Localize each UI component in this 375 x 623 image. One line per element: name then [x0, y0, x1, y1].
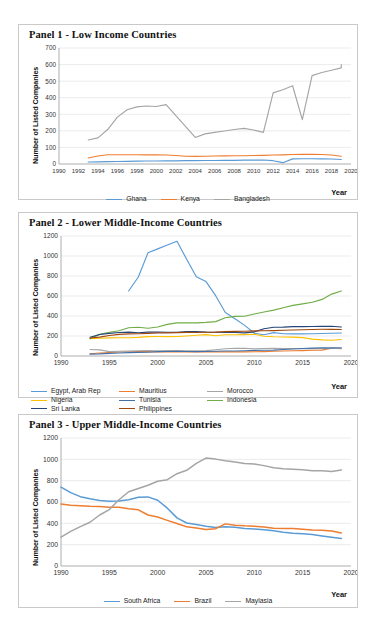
svg-text:2014: 2014	[286, 168, 300, 174]
svg-text:2012: 2012	[266, 168, 280, 174]
legend-item-south-africa[interactable]: South Africa	[104, 598, 161, 605]
panel-1: Panel 1 - Low Income Countries Number of…	[18, 24, 358, 200]
svg-text:1000: 1000	[43, 252, 58, 259]
panel-3-legend: South AfricaBrazilMaylasia	[19, 598, 357, 605]
svg-text:2020: 2020	[343, 569, 357, 576]
panel-3-y-axis-label: Number of Listed Companies	[31, 469, 40, 566]
panel-3-chart-svg: 0200400600800100012001990199520002005201…	[19, 430, 357, 593]
svg-text:600: 600	[47, 292, 58, 299]
svg-text:2010: 2010	[247, 168, 261, 174]
legend-swatch-line-icon	[214, 199, 230, 200]
legend-item-sri-lanka[interactable]: Sri Lanka	[31, 406, 119, 413]
svg-text:2000: 2000	[150, 168, 164, 174]
panel-2-plot: Number of Listed Companies Year 02004006…	[19, 228, 357, 383]
svg-text:600: 600	[45, 61, 56, 68]
svg-text:400: 400	[47, 312, 58, 319]
svg-text:2002: 2002	[169, 168, 183, 174]
svg-text:1998: 1998	[130, 168, 144, 174]
svg-text:1200: 1200	[43, 434, 58, 441]
svg-text:2016: 2016	[305, 168, 319, 174]
svg-text:2010: 2010	[247, 569, 262, 576]
legend-item-brazil[interactable]: Brazil	[174, 598, 211, 605]
svg-text:1000: 1000	[43, 456, 58, 463]
legend-swatch-line-icon	[207, 400, 223, 401]
svg-text:2008: 2008	[228, 168, 242, 174]
legend-item-mauritius[interactable]: Mauritius	[119, 388, 207, 395]
legend-item-maylasia[interactable]: Maylasia	[225, 598, 272, 605]
legend-item-nigeria[interactable]: Nigeria	[31, 397, 119, 404]
svg-text:400: 400	[45, 94, 56, 101]
legend-swatch-line-icon	[31, 391, 47, 392]
svg-text:2010: 2010	[247, 359, 262, 366]
legend-item-bangladesh[interactable]: Bangladesh	[214, 196, 270, 203]
svg-text:200: 200	[47, 332, 58, 339]
svg-text:2015: 2015	[295, 359, 310, 366]
legend-label: Brazil	[194, 598, 211, 605]
legend-label: South Africa	[124, 598, 161, 605]
svg-text:1995: 1995	[102, 569, 117, 576]
svg-text:1990: 1990	[54, 359, 69, 366]
svg-text:1992: 1992	[72, 168, 86, 174]
legend-swatch-line-icon	[31, 400, 47, 401]
svg-text:1200: 1200	[43, 232, 58, 239]
legend-item-philippines[interactable]: Philippines	[119, 406, 207, 413]
legend-swatch-line-icon	[161, 199, 177, 200]
legend-label: Kenya	[181, 196, 200, 203]
panel-1-y-axis-label: Number of Listed Companies	[31, 67, 40, 164]
svg-text:700: 700	[45, 44, 56, 51]
legend-item-ghana[interactable]: Ghana	[106, 196, 146, 203]
panel-1-legend: GhanaKenyaBangladesh	[19, 196, 357, 203]
legend-item-tunisia[interactable]: Tunisia	[119, 397, 207, 404]
svg-text:2005: 2005	[199, 359, 214, 366]
legend-swatch-line-icon	[174, 601, 190, 602]
svg-text:2006: 2006	[208, 168, 222, 174]
legend-label: Nigeria	[51, 397, 73, 404]
svg-text:2005: 2005	[198, 569, 213, 576]
legend-label: Maylasia	[245, 598, 272, 605]
legend-swatch-line-icon	[119, 391, 135, 392]
legend-label: Tunisia	[139, 397, 161, 404]
legend-item-kenya[interactable]: Kenya	[161, 196, 200, 203]
figure-page: Panel 1 - Low Income Countries Number of…	[0, 0, 375, 623]
panel-2-y-axis-label: Number of Listed Companies	[31, 259, 40, 356]
panel-2: Panel 2 - Lower Middle-Income Countries …	[18, 212, 358, 398]
panel-1-plot: Number of Listed Companies Year 01002003…	[19, 40, 357, 190]
panel-3: Panel 3 - Upper Middle-Income Countries …	[18, 414, 358, 608]
legend-label: Mauritius	[139, 388, 167, 395]
svg-text:1990: 1990	[53, 569, 68, 576]
panel-2-title: Panel 2 - Lower Middle-Income Countries	[29, 217, 357, 228]
svg-text:200: 200	[45, 127, 56, 134]
svg-text:600: 600	[47, 498, 59, 505]
legend-label: Philippines	[139, 406, 172, 413]
legend-swatch-line-icon	[31, 408, 47, 409]
legend-swatch-line-icon	[106, 199, 122, 200]
svg-text:1994: 1994	[91, 168, 105, 174]
svg-text:200: 200	[47, 541, 59, 548]
svg-text:100: 100	[45, 144, 56, 151]
legend-label: Egypt, Arab Rep	[51, 388, 101, 395]
svg-text:2000: 2000	[150, 569, 165, 576]
svg-text:2000: 2000	[150, 359, 165, 366]
svg-text:400: 400	[47, 520, 59, 527]
legend-swatch-line-icon	[119, 400, 135, 401]
legend-label: Sri Lanka	[51, 406, 80, 413]
legend-label: Ghana	[126, 196, 146, 203]
panel-2-legend: Egypt, Arab RepMauritiusMoroccoNigeriaTu…	[19, 388, 357, 412]
legend-swatch-line-icon	[119, 408, 135, 409]
legend-item-indonesia[interactable]: Indonesia	[207, 397, 295, 404]
legend-swatch-line-icon	[207, 391, 223, 392]
svg-text:1990: 1990	[52, 168, 66, 174]
panel-3-plot: Number of Listed Companies Year 02004006…	[19, 430, 357, 593]
svg-text:0: 0	[52, 160, 56, 167]
legend-item-morocco[interactable]: Morocco	[207, 388, 295, 395]
legend-label: Morocco	[227, 388, 253, 395]
legend-label: Indonesia	[227, 397, 256, 404]
panel-3-title: Panel 3 - Upper Middle-Income Countries	[29, 419, 357, 430]
legend-item-egypt-arab-rep[interactable]: Egypt, Arab Rep	[31, 388, 119, 395]
svg-text:300: 300	[45, 111, 56, 118]
legend-swatch-line-icon	[104, 601, 120, 602]
legend-swatch-line-icon	[225, 601, 241, 602]
panel-1-title: Panel 1 - Low Income Countries	[29, 29, 357, 40]
svg-text:2020: 2020	[344, 359, 357, 366]
svg-text:2020: 2020	[344, 168, 357, 174]
